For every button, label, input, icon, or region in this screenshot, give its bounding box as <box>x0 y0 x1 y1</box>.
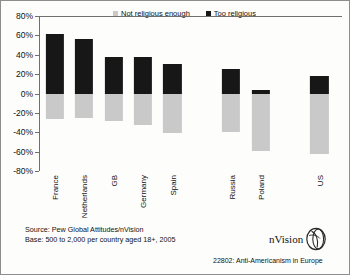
x-axis-label: France <box>50 175 59 200</box>
y-axis-tick-label: 0% <box>21 89 33 99</box>
bar <box>134 94 152 125</box>
y-axis-tick <box>35 35 39 36</box>
bar-slot <box>305 16 334 171</box>
y-axis-tick <box>35 171 39 172</box>
bar-slot <box>216 16 245 171</box>
bar <box>222 69 240 93</box>
bar-slot <box>40 16 69 171</box>
bar <box>310 76 328 93</box>
x-axis-label-spacer <box>188 173 218 225</box>
y-axis-tick <box>35 113 39 114</box>
x-axis-label: GB <box>109 175 118 187</box>
x-axis-label-slot: Spain <box>158 173 188 225</box>
bar-slot <box>69 16 98 171</box>
x-axis-label: Germany <box>139 175 148 208</box>
y-axis-tick-label: -80% <box>13 166 33 176</box>
x-axis-label: Netherlands <box>80 175 89 218</box>
bar <box>134 57 152 94</box>
footer-divider <box>13 213 337 214</box>
x-axis-labels: FranceNetherlandsGBGermanySpainRussiaPol… <box>40 173 335 225</box>
bar-slot-spacer <box>187 16 216 171</box>
x-axis-label: Spain <box>168 175 177 195</box>
y-axis-tick-label: -60% <box>13 147 33 157</box>
bar-slot-spacer <box>275 16 304 171</box>
chart-frame: Not religious enough Too religious 80%60… <box>0 0 350 275</box>
bar-slot <box>246 16 275 171</box>
bar <box>163 64 181 93</box>
nvision-logo: nVision <box>269 227 327 251</box>
y-axis-tick <box>35 94 39 95</box>
bar-group <box>40 16 334 171</box>
base-line: Base: 500 to 2,000 per country aged 18+,… <box>25 235 175 245</box>
y-axis-tick-label: 60% <box>16 30 33 40</box>
y-axis-tick <box>35 55 39 56</box>
bar <box>75 39 93 93</box>
x-axis-label-spacer <box>276 173 306 225</box>
y-axis-tick <box>35 74 39 75</box>
y-axis-tick <box>35 132 39 133</box>
bar <box>222 94 240 133</box>
bar <box>75 94 93 118</box>
bar <box>251 94 269 151</box>
bar-slot <box>99 16 128 171</box>
bar <box>46 34 64 93</box>
x-axis-label-slot: Germany <box>129 173 159 225</box>
nvision-globe-icon <box>305 227 327 251</box>
source-note: Source: Pew Global Attitudes/nVision Bas… <box>25 225 175 245</box>
bar <box>46 94 64 119</box>
bar-slot <box>158 16 187 171</box>
plot-area: 80%60%40%20%0%-20%-40%-60%-80% <box>39 16 334 171</box>
x-axis-label: Poland <box>257 175 266 200</box>
y-axis-tick-label: 40% <box>16 50 33 60</box>
bar-slot <box>128 16 157 171</box>
x-axis-label: Russia <box>227 175 236 199</box>
x-axis-label: US <box>316 175 325 186</box>
x-axis-label-slot: GB <box>99 173 129 225</box>
y-axis-tick-label: 80% <box>16 11 33 21</box>
x-axis-label-slot: France <box>40 173 70 225</box>
chart-caption: 22802: Anti-Americanism in Europe <box>213 257 323 264</box>
x-axis-label-slot: Netherlands <box>70 173 100 225</box>
bar <box>310 94 328 154</box>
nvision-logo-text: nVision <box>269 233 303 245</box>
y-axis-tick-label: 20% <box>16 69 33 79</box>
x-axis-label-slot: Russia <box>217 173 247 225</box>
x-axis-label-slot: Poland <box>247 173 277 225</box>
y-axis-tick <box>35 152 39 153</box>
bar <box>104 94 122 121</box>
x-axis-label-slot: US <box>306 173 336 225</box>
zero-line <box>39 16 342 17</box>
bar <box>163 94 181 134</box>
y-axis-tick-label: -40% <box>13 127 33 137</box>
source-line: Source: Pew Global Attitudes/nVision <box>25 225 175 235</box>
y-axis-tick-label: -20% <box>13 108 33 118</box>
bar <box>104 57 122 94</box>
